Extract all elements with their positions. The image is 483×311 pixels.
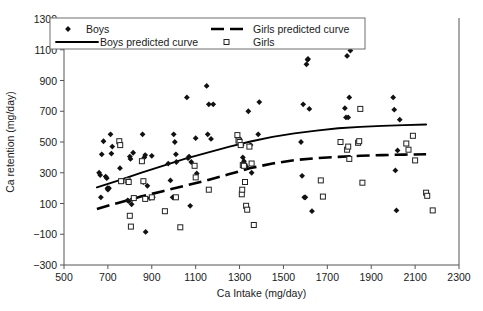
data-point-girl — [346, 144, 351, 149]
data-point-girl — [240, 187, 245, 192]
data-point-boy — [204, 83, 210, 89]
data-point-boy — [391, 107, 397, 113]
data-point-boy — [249, 170, 255, 176]
data-point-boy — [298, 139, 304, 145]
data-point-boy — [210, 101, 216, 107]
y-tick-label: 500 — [39, 136, 57, 148]
axes — [64, 18, 459, 265]
data-point-boy — [101, 138, 107, 144]
y-tick-label: 100 — [39, 198, 57, 210]
data-point-girl — [193, 175, 198, 180]
data-point-girl — [128, 224, 133, 229]
x-axis-title: Ca Intake (mg/day) — [217, 287, 306, 299]
data-point-boy — [172, 139, 178, 145]
x-tick-label: 1900 — [360, 271, 384, 283]
y-tick-label: −300 — [33, 259, 57, 271]
legend-marker-girls — [224, 40, 229, 45]
data-point-girl — [173, 195, 178, 200]
data-point-boy — [109, 144, 115, 150]
data-point-girl — [251, 223, 256, 228]
data-point-girl — [360, 180, 365, 185]
scatter-plot: −300−10010030050070090011001300500700900… — [0, 0, 483, 311]
data-point-girl — [241, 163, 246, 168]
data-point-boy — [395, 148, 401, 154]
data-point-girl — [127, 213, 132, 218]
data-point-boy — [300, 101, 306, 107]
data-point-girl — [141, 179, 146, 184]
data-point-girl — [131, 196, 136, 201]
data-point-girl — [347, 156, 352, 161]
data-point-boy — [140, 131, 146, 137]
x-tick-label: 700 — [99, 271, 117, 283]
chart-figure: −300−10010030050070090011001300500700900… — [0, 0, 483, 311]
data-point-boy — [394, 208, 400, 214]
x-tick-label: 1500 — [272, 271, 296, 283]
data-point-boy — [108, 131, 114, 137]
data-point-boy — [173, 151, 179, 157]
y-tick-label: 300 — [39, 167, 57, 179]
data-point-girl — [238, 143, 243, 148]
data-point-boy — [304, 61, 310, 67]
data-point-boy — [99, 151, 105, 157]
x-tick-label: 1100 — [184, 271, 207, 283]
data-point-boy — [342, 105, 348, 111]
data-point-girl — [243, 180, 248, 185]
data-point-girl — [235, 133, 240, 138]
data-point-girl — [404, 141, 409, 146]
data-point-boy — [130, 150, 136, 156]
x-tick-label: 1700 — [316, 271, 340, 283]
data-point-girl — [338, 140, 343, 145]
legend-label-girls: Girls — [253, 36, 275, 48]
data-point-girl — [162, 209, 167, 214]
legend-label-boys: Boys — [86, 23, 109, 35]
data-point-girl — [139, 159, 144, 164]
legend: BoysGirls predicted curveBoys predicted … — [50, 18, 365, 49]
data-point-girl — [425, 193, 430, 198]
data-point-girl — [245, 207, 250, 212]
data-point-boy — [187, 203, 193, 209]
data-point-girl — [406, 147, 411, 152]
data-point-boy — [117, 165, 123, 171]
data-point-boy — [309, 208, 315, 214]
data-point-boy — [171, 131, 177, 137]
data-point-girl — [410, 133, 415, 138]
legend-label-girls-curve: Girls predicted curve — [253, 23, 349, 35]
y-axis-ticks: −300−10010030050070090011001300 — [33, 13, 64, 271]
data-point-girl — [320, 194, 325, 199]
data-point-girl — [143, 196, 148, 201]
data-point-boy — [149, 153, 155, 159]
data-point-boy — [208, 136, 214, 142]
data-point-girl — [430, 208, 435, 213]
data-point-girl — [413, 158, 418, 163]
y-tick-label: 900 — [39, 75, 57, 87]
data-point-girl — [249, 161, 254, 166]
data-point-boy — [392, 168, 398, 174]
data-point-girl — [247, 144, 252, 149]
data-point-boy — [306, 106, 312, 112]
data-point-boy — [168, 178, 174, 184]
data-point-girl — [119, 179, 124, 184]
data-point-boy — [256, 99, 262, 105]
data-point-girl — [149, 195, 154, 200]
data-point-boy — [109, 151, 115, 157]
data-point-girl — [358, 106, 363, 111]
y-tick-label: −100 — [33, 228, 57, 240]
x-tick-label: 2300 — [447, 271, 471, 283]
y-tick-label: 700 — [39, 105, 57, 117]
data-point-boy — [184, 95, 190, 101]
data-point-girl — [192, 163, 197, 168]
data-point-girl — [206, 187, 211, 192]
data-point-boy — [397, 117, 403, 123]
data-point-boy — [255, 131, 261, 137]
x-tick-label: 1300 — [228, 271, 252, 283]
data-point-boy — [390, 95, 396, 101]
data-point-boy — [302, 194, 308, 200]
data-point-boy — [299, 173, 305, 179]
data-point-girl — [126, 180, 131, 185]
data-point-boy — [193, 135, 199, 141]
x-tick-label: 900 — [143, 271, 161, 283]
data-point-girl — [357, 139, 362, 144]
data-point-girl — [118, 143, 123, 148]
data-point-boy — [346, 95, 352, 101]
data-point-girl — [178, 225, 183, 230]
